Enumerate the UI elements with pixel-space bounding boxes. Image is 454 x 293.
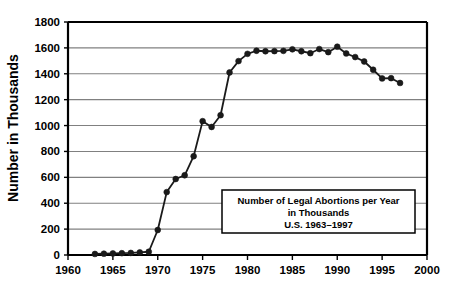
data-point	[173, 176, 179, 182]
legend-line: Number of Legal Abortions per Year	[237, 195, 399, 206]
x-tick-label: 1965	[100, 264, 126, 276]
data-point	[361, 59, 367, 65]
data-point	[379, 76, 385, 82]
data-point	[289, 46, 295, 52]
data-point	[191, 153, 197, 159]
y-tick-label: 1200	[34, 94, 60, 106]
x-tick-label: 1995	[369, 264, 395, 276]
data-point	[263, 48, 269, 54]
data-point	[200, 118, 206, 124]
x-tick-label: 1990	[324, 264, 350, 276]
data-point	[272, 48, 278, 54]
y-axis-label-container: Number in Thousands	[0, 0, 26, 256]
data-point	[245, 51, 251, 57]
data-point	[101, 251, 107, 257]
x-tick-label: 1975	[190, 264, 216, 276]
y-tick-label: 1000	[34, 120, 60, 132]
data-point	[119, 250, 125, 256]
y-tick-label: 0	[54, 249, 60, 261]
data-point	[397, 80, 403, 86]
data-point	[307, 50, 313, 56]
line-chart: 020040060080010001200140016001800 196019…	[0, 0, 454, 293]
legend-box: Number of Legal Abortions per Yearin Tho…	[222, 190, 415, 233]
data-point	[146, 249, 152, 255]
y-tick-label: 200	[41, 223, 60, 235]
data-point	[128, 250, 134, 256]
y-axis-label: Number in Thousands	[5, 54, 21, 202]
data-point	[281, 48, 287, 54]
data-point	[236, 58, 242, 64]
data-point	[110, 251, 116, 257]
x-tick-labels: 196019651970197519801985199019952000	[55, 264, 440, 276]
x-tick-label: 1985	[280, 264, 306, 276]
data-point	[164, 189, 170, 195]
data-point	[92, 251, 98, 257]
y-tick-label: 1400	[34, 68, 60, 80]
data-point	[227, 70, 233, 76]
data-point	[155, 227, 161, 233]
data-point	[137, 250, 143, 256]
data-point	[325, 49, 331, 55]
legend-line: U.S. 1963–1997	[284, 219, 353, 230]
y-tick-label: 1600	[34, 42, 60, 54]
data-point	[298, 48, 304, 54]
data-point	[182, 172, 188, 178]
legend-line: in Thousands	[288, 207, 350, 218]
chart-figure: Number in Thousands 02004006008001000120…	[0, 0, 454, 293]
data-point	[352, 54, 358, 60]
y-tick-label: 800	[41, 145, 60, 157]
y-tick-label: 1800	[34, 16, 60, 28]
data-point	[388, 75, 394, 81]
data-point	[316, 46, 322, 52]
data-point	[254, 48, 260, 54]
y-tick-label: 600	[41, 171, 60, 183]
data-point	[370, 67, 376, 73]
x-tick-label: 2000	[414, 264, 440, 276]
data-point	[218, 112, 224, 118]
x-tick-label: 1980	[235, 264, 261, 276]
x-tick-label: 1970	[145, 264, 171, 276]
data-point	[209, 124, 215, 130]
data-point	[343, 51, 349, 57]
x-tick-label: 1960	[55, 264, 81, 276]
data-point	[334, 44, 340, 50]
y-tick-label: 400	[41, 197, 60, 209]
